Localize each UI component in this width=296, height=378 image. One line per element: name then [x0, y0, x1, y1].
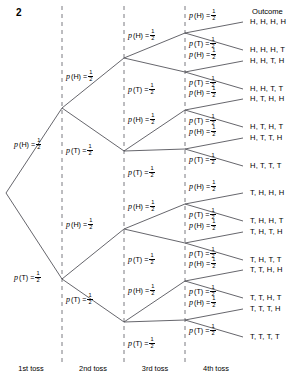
probability-label-tails: p(T) =12 [128, 337, 155, 350]
probability-label-heads: p(H) =12 [66, 218, 93, 231]
probability-label-heads: p(H) =12 [14, 138, 41, 151]
outcome-label: H, H, H, H [250, 17, 286, 26]
branch-toss4-2 [185, 61, 243, 72]
outcome-label: H, T, T, H [250, 133, 282, 142]
branch-toss4-14 [185, 309, 243, 320]
probability-label-tails: p(T) =12 [14, 271, 41, 284]
probability-label-heads: p(H) =12 [189, 219, 216, 232]
outcome-label: H, H, T, H [250, 56, 284, 65]
probability-label-heads: p(H) =12 [189, 257, 216, 270]
branch-toss4-6 [185, 138, 243, 149]
toss-column-label: 1st toss [3, 364, 59, 373]
probability-label-tails: p(T) =12 [128, 83, 155, 96]
probability-label-heads: p(H) =12 [189, 296, 216, 309]
branch-toss4-8 [185, 193, 243, 204]
probability-label-heads: p(H) =12 [128, 29, 155, 42]
toss-column-dividers [62, 6, 185, 362]
branch-toss3-5 [124, 229, 185, 243]
probability-label-heads: p(H) =12 [189, 9, 216, 22]
probability-label-heads: p(H) =12 [189, 86, 216, 99]
branch-toss1-1 [6, 193, 62, 279]
branch-toss4-10 [185, 232, 243, 243]
outcome-label: H, T, T, T [250, 161, 281, 170]
probability-label-tails: p(T) =12 [66, 293, 93, 306]
branch-toss2-2 [62, 229, 124, 279]
outcome-label: T, T, T, H [250, 304, 281, 313]
toss-column-label: 2nd toss [65, 364, 121, 373]
branch-toss3-1 [124, 58, 185, 72]
outcome-label: T, H, T, T [250, 255, 282, 264]
probability-label-heads: p(H) =12 [128, 113, 155, 126]
outcome-label: T, T, T, T [250, 332, 280, 341]
probability-label-heads: p(H) =12 [128, 200, 155, 213]
branch-toss3-7 [124, 320, 185, 322]
outcome-column-header: Outcome [252, 7, 283, 16]
branch-toss4-4 [185, 99, 243, 110]
probability-label-tails: p(T) =12 [128, 166, 155, 179]
toss-column-label: 4th toss [188, 364, 244, 373]
probability-label-tails: p(T) =12 [66, 144, 93, 157]
branch-toss4-12 [185, 270, 243, 281]
branch-toss2-0 [62, 58, 124, 108]
outcome-label: T, T, H, H [250, 265, 283, 274]
probability-label-heads: p(H) =12 [128, 284, 155, 297]
probability-label-heads: p(H) =12 [189, 48, 216, 61]
probability-label-heads: p(H) =12 [189, 125, 216, 138]
outcome-label: H, T, H, H [250, 94, 284, 103]
probability-label-tails: p(T) =12 [189, 153, 216, 166]
probability-label-heads: p(H) =12 [189, 180, 216, 193]
outcome-label: H, H, H, T [250, 45, 285, 54]
outcome-label: T, H, H, H [250, 188, 284, 197]
probability-label-tails: p(T) =12 [128, 253, 155, 266]
outcome-label: H, T, H, T [250, 122, 283, 131]
toss-column-label: 3rd toss [127, 364, 183, 373]
branch-toss3-3 [124, 149, 185, 151]
outcome-label: T, H, T, H [250, 227, 283, 236]
probability-label-heads: p(H) =12 [66, 70, 93, 83]
outcome-label: T, H, H, T [250, 216, 283, 225]
probability-label-tails: p(T) =12 [189, 324, 216, 337]
outcome-label: T, T, H, T [250, 293, 282, 302]
outcome-label: H, H, T, T [250, 84, 283, 93]
branch-toss4-0 [185, 22, 243, 33]
